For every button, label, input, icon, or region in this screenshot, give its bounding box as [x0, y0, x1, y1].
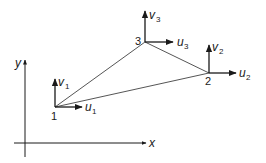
node-1-label: 1 — [51, 110, 57, 122]
v2-label: v — [212, 40, 219, 54]
u2-sub: 2 — [246, 73, 251, 82]
u1-sub: 1 — [92, 107, 97, 116]
node-3: 3 v 3 u 3 — [135, 8, 189, 51]
triangle-element — [55, 42, 209, 107]
u1-label: u — [85, 100, 92, 114]
u3-label: u — [177, 35, 184, 49]
node-3-label: 3 — [135, 35, 141, 47]
node-2-label: 2 — [205, 75, 211, 87]
u3-sub: 3 — [184, 42, 189, 51]
x-axis-label: x — [148, 136, 156, 150]
v2-sub: 2 — [219, 47, 224, 56]
u2-label: u — [239, 66, 246, 80]
y-axis-label: y — [14, 56, 22, 70]
diagram-canvas: y x 1 v 1 u 1 2 v 2 u 2 — [0, 0, 266, 163]
v1-label: v — [58, 75, 65, 89]
node-2: 2 v 2 u 2 — [205, 40, 251, 87]
v1-sub: 1 — [65, 82, 70, 91]
v3-label: v — [149, 8, 156, 22]
v3-sub: 3 — [156, 15, 161, 24]
